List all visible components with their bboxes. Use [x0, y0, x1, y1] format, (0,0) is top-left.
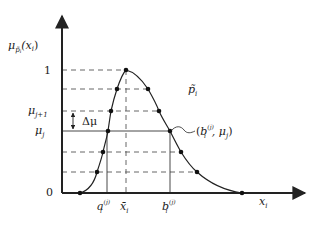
point-b — [168, 129, 173, 134]
y-tick-mu-j-plus-1: μj+1 — [28, 104, 48, 119]
point — [146, 87, 151, 92]
curve-label: p̃i — [188, 83, 197, 98]
point — [95, 170, 100, 175]
membership-function-figure: μp̃i(xi) 1 μj+1 μj 0 Δμ p̃i (b(j)i, μj) … — [0, 0, 320, 226]
point — [101, 150, 106, 155]
x-axis-label: xi — [259, 195, 267, 210]
diagram-canvas: μp̃i(xi) 1 μj+1 μj 0 Δμ p̃i (b(j)i, μj) … — [0, 0, 320, 226]
x-tick-mean: x̄i — [120, 200, 128, 215]
point — [109, 109, 114, 114]
point — [78, 191, 83, 196]
point — [157, 109, 162, 114]
point — [179, 150, 184, 155]
point — [195, 170, 200, 175]
point-leader-line — [171, 127, 195, 133]
y-tick-mu-j: μj — [35, 124, 45, 139]
point — [115, 87, 120, 92]
y-tick-one: 1 — [44, 64, 51, 77]
x-tick-b: b(j)i — [162, 198, 176, 214]
point-a — [106, 129, 111, 134]
point-peak — [124, 68, 129, 73]
y-axis-label: μp̃i(xi) — [8, 39, 38, 54]
x-tick-a: a(j)i — [97, 198, 111, 214]
alpha-cut-lines — [62, 131, 170, 193]
point — [240, 191, 245, 196]
horizontal-grid-lines — [62, 70, 197, 193]
delta-mu-label: Δμ — [82, 115, 97, 128]
point-b-mu-label: (b(j)i, μj) — [196, 123, 232, 140]
y-tick-zero: 0 — [46, 186, 53, 199]
